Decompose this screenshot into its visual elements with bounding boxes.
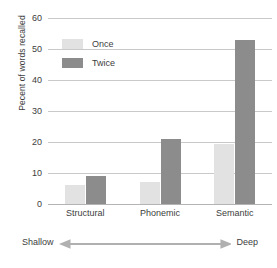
depth-continuum-annotation: Shallow Deep bbox=[22, 236, 258, 248]
continuum-right-label: Deep bbox=[236, 237, 258, 247]
y-axis-title: Pecent of words recalled bbox=[17, 0, 27, 133]
y-tick-label: 40 bbox=[32, 75, 42, 85]
y-tick-label: 20 bbox=[32, 137, 42, 147]
legend-swatch-once bbox=[62, 39, 83, 49]
legend: OnceTwice bbox=[62, 36, 115, 74]
y-tick-label: 30 bbox=[32, 106, 42, 116]
bar-phonemic-once bbox=[140, 182, 160, 204]
legend-label: Twice bbox=[92, 58, 115, 68]
axis-baseline: 0 bbox=[48, 204, 272, 205]
bar-chart: Pecent of words recalled 0102030405060 O… bbox=[0, 0, 277, 268]
bar-semantic-once bbox=[214, 144, 234, 204]
bar-phonemic-twice bbox=[161, 139, 181, 204]
y-tick-label: 50 bbox=[32, 44, 42, 54]
bar-semantic-twice bbox=[235, 40, 255, 204]
y-tick-label: 60 bbox=[32, 13, 42, 23]
bar-group bbox=[197, 18, 272, 204]
y-tick-label: 0 bbox=[37, 199, 42, 209]
x-tick-label-phonemic: Phonemic bbox=[123, 208, 198, 218]
x-tick-label-structural: Structural bbox=[48, 208, 123, 218]
bar-structural-twice bbox=[86, 176, 106, 204]
legend-item: Once bbox=[62, 36, 115, 51]
continuum-left-label: Shallow bbox=[22, 237, 54, 247]
double-headed-arrow-icon bbox=[59, 236, 232, 248]
bar-structural-once bbox=[65, 185, 85, 204]
x-tick-label-semantic: Semantic bbox=[197, 208, 272, 218]
y-tick-label: 10 bbox=[32, 168, 42, 178]
x-axis-labels: StructuralPhonemicSemantic bbox=[48, 208, 272, 218]
legend-item: Twice bbox=[62, 55, 115, 70]
legend-label: Once bbox=[92, 39, 114, 49]
legend-swatch-twice bbox=[62, 58, 83, 68]
bar-group bbox=[123, 18, 198, 204]
